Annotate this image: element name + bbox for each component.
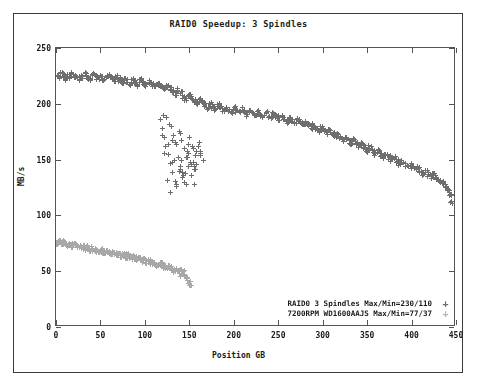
x-tick-label: 450 <box>449 331 463 340</box>
y-tick-mark <box>449 48 454 49</box>
x-tick-mark <box>412 48 413 53</box>
x-tick-label: 150 <box>182 331 196 340</box>
y-axis-label: MB/s <box>17 167 26 186</box>
scatter-plot-canvas <box>56 48 456 327</box>
x-tick-label: 400 <box>404 331 418 340</box>
plot-area: RAID0 3 Spindles Max/Min=230/110 + 7200R… <box>55 47 455 326</box>
x-tick-mark <box>367 320 368 325</box>
x-tick-mark <box>56 320 57 325</box>
x-tick-mark <box>278 320 279 325</box>
y-tick-mark <box>56 160 61 161</box>
y-tick-mark <box>449 104 454 105</box>
y-tick-mark <box>56 327 61 328</box>
y-tick-label: 100 <box>37 211 51 220</box>
x-tick-mark <box>456 48 457 53</box>
x-tick-label: 0 <box>54 331 59 340</box>
x-tick-mark <box>412 320 413 325</box>
x-tick-mark <box>323 48 324 53</box>
x-tick-label: 50 <box>96 331 106 340</box>
x-tick-mark <box>189 320 190 325</box>
chart-title: RAID0 Speedup: 3 Spindles <box>0 19 477 29</box>
y-tick-mark <box>56 104 61 105</box>
y-tick-mark <box>449 215 454 216</box>
x-tick-mark <box>456 320 457 325</box>
x-tick-mark <box>100 48 101 53</box>
y-tick-mark <box>449 327 454 328</box>
x-tick-mark <box>323 320 324 325</box>
y-tick-label: 50 <box>41 267 51 276</box>
y-tick-label: 200 <box>37 99 51 108</box>
y-tick-mark <box>56 271 61 272</box>
x-tick-mark <box>367 48 368 53</box>
x-tick-mark <box>100 320 101 325</box>
x-tick-label: 300 <box>315 331 329 340</box>
x-tick-mark <box>234 320 235 325</box>
plus-marker-icon: + <box>441 309 450 319</box>
y-tick-mark <box>449 271 454 272</box>
y-tick-mark <box>56 215 61 216</box>
x-tick-label: 100 <box>138 331 152 340</box>
chart-legend: RAID0 3 Spindles Max/Min=230/110 + 7200R… <box>288 299 451 319</box>
y-tick-label: 150 <box>37 155 51 164</box>
legend-label-single-drive: 7200RPM WD1600AAJS Max/Min=77/37 <box>288 309 433 319</box>
x-tick-mark <box>189 48 190 53</box>
x-tick-mark <box>234 48 235 53</box>
x-tick-label: 250 <box>271 331 285 340</box>
y-tick-label: 0 <box>46 323 51 332</box>
x-tick-mark <box>278 48 279 53</box>
legend-item-raid0: RAID0 3 Spindles Max/Min=230/110 + <box>288 299 451 309</box>
y-tick-label: 250 <box>37 44 51 53</box>
x-tick-mark <box>56 48 57 53</box>
x-tick-label: 350 <box>360 331 374 340</box>
x-tick-mark <box>145 320 146 325</box>
x-tick-mark <box>145 48 146 53</box>
x-tick-label: 200 <box>227 331 241 340</box>
legend-item-single-drive: 7200RPM WD1600AAJS Max/Min=77/37 + <box>288 309 451 319</box>
x-axis-label: Position GB <box>0 351 477 360</box>
plot-canvas <box>56 48 454 325</box>
y-tick-mark <box>449 160 454 161</box>
legend-label-raid0: RAID0 3 Spindles Max/Min=230/110 <box>288 299 433 309</box>
